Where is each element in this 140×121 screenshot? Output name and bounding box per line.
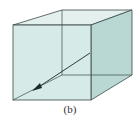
cube-right-face — [91, 10, 132, 100]
cube-front-face — [13, 25, 91, 100]
figure-caption: (b) — [0, 103, 140, 115]
